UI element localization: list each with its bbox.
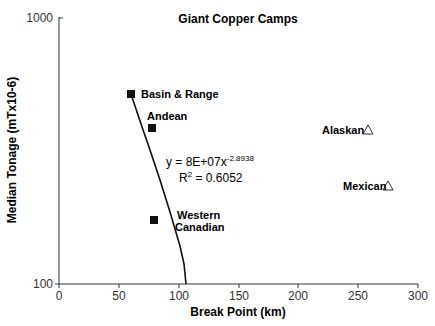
label-alaskan: Alaskan bbox=[322, 124, 364, 136]
x-tick-200: 200 bbox=[288, 289, 308, 303]
x-axis-title: Break Point (km) bbox=[190, 305, 285, 319]
label-andean: Andean bbox=[147, 110, 188, 122]
trendline bbox=[131, 94, 186, 284]
chart: Giant Copper Camps 1000 100 0 50 100 150… bbox=[0, 0, 435, 326]
label-basin-range: Basin & Range bbox=[141, 88, 219, 100]
marker-alaskan bbox=[363, 125, 373, 134]
x-tick-150: 150 bbox=[229, 289, 249, 303]
label-western-line1: Western bbox=[177, 209, 220, 221]
y-tick-100: 100 bbox=[33, 277, 53, 291]
x-tick-250: 250 bbox=[348, 289, 368, 303]
x-axis: 0 50 100 150 200 250 300 bbox=[56, 284, 429, 303]
y-axis-title: Median Tonage (mTx10-6) bbox=[5, 77, 19, 223]
x-tick-100: 100 bbox=[169, 289, 189, 303]
x-tick-50: 50 bbox=[112, 289, 126, 303]
label-mexican: Mexican bbox=[343, 180, 387, 192]
y-tick-1000: 1000 bbox=[26, 11, 53, 25]
marker-andean bbox=[148, 124, 156, 132]
marker-western-canadian bbox=[150, 216, 158, 224]
trend-r2: R2 = 0.6052 bbox=[179, 170, 243, 185]
label-western-line2: Canadian bbox=[175, 221, 225, 233]
x-tick-300: 300 bbox=[408, 289, 428, 303]
marker-basin-range bbox=[127, 90, 135, 98]
y-axis: 1000 100 bbox=[26, 11, 63, 291]
chart-title: Giant Copper Camps bbox=[178, 12, 298, 26]
trend-equation: y = 8E+07x-2.8938 bbox=[166, 154, 254, 169]
x-tick-0: 0 bbox=[56, 289, 63, 303]
